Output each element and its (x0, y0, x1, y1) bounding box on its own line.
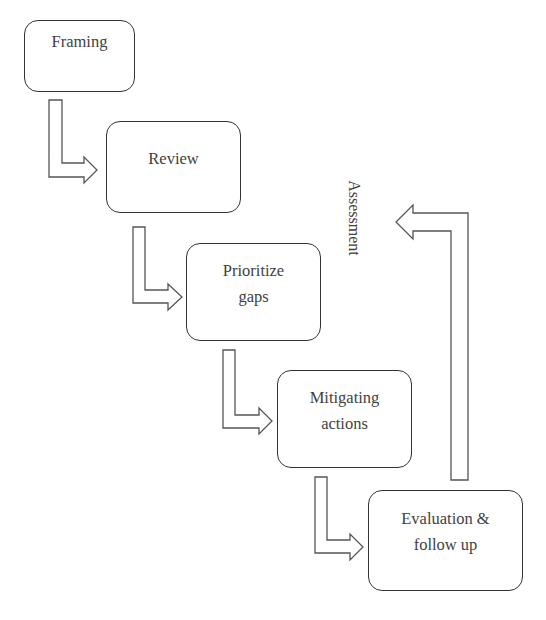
step-framing: Framing (24, 20, 135, 92)
step-mitigating-actions-label-line2: actions (278, 411, 411, 437)
arrow-prioritize-to-mitigating-icon (223, 350, 272, 434)
step-evaluation-follow-up: Evaluation & follow up (368, 490, 523, 591)
assessment-process-diagram: Framing Review Prioritize gaps Mitigatin… (0, 0, 546, 620)
step-mitigating-actions: Mitigating actions (277, 370, 412, 468)
step-prioritize-gaps: Prioritize gaps (186, 243, 321, 341)
step-evaluation-follow-up-label-line1: Evaluation & (369, 506, 522, 532)
step-mitigating-actions-label-line1: Mitigating (278, 385, 411, 411)
step-evaluation-follow-up-label-line2: follow up (369, 532, 522, 558)
assessment-loop-label: Assessment (345, 180, 363, 256)
step-framing-label: Framing (25, 29, 134, 55)
step-review: Review (106, 121, 241, 213)
arrow-framing-to-review-icon (49, 100, 97, 183)
arrow-mitigating-to-evaluation-icon (315, 477, 363, 560)
step-prioritize-gaps-label-line2: gaps (187, 284, 320, 310)
arrow-review-to-prioritize-icon (133, 227, 182, 310)
step-prioritize-gaps-label-line1: Prioritize (187, 258, 320, 284)
step-review-label: Review (107, 146, 240, 172)
